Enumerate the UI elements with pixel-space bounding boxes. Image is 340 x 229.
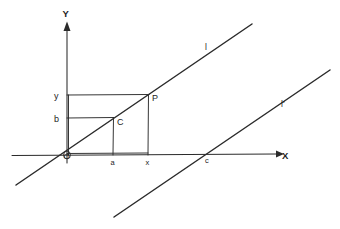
point-c-label: C	[117, 117, 124, 127]
coordinate-diagram: X Y O y b a x c P C l l'	[0, 0, 340, 229]
a-value-label: a	[111, 158, 116, 167]
line-l-group	[16, 24, 252, 185]
figure-root: X Y O y b a x c P C l l'	[0, 0, 340, 229]
origin-label: O	[64, 152, 70, 161]
point-p-label: P	[152, 93, 158, 103]
y-value-label: y	[54, 91, 59, 101]
line-l-prime	[114, 70, 330, 217]
segment-b-to-c	[67, 118, 114, 119]
y-axis-label: Y	[63, 8, 70, 19]
x-axis-label: X	[282, 150, 289, 161]
construction-group	[67, 95, 149, 156]
segment-p-to-x	[148, 95, 149, 156]
y-axis-arrow-icon	[64, 22, 71, 32]
line-l-prime-group	[114, 70, 330, 217]
x-value-label: x	[146, 158, 150, 167]
line-l-label: l	[205, 42, 207, 52]
segment-c-to-a	[113, 118, 114, 156]
labels-group: X Y O y b a x c P C l l'	[54, 8, 289, 167]
b-value-label: b	[54, 114, 59, 124]
segment-y-to-p	[67, 95, 149, 96]
line-l-prime-label: l'	[281, 99, 285, 109]
c-value-label: c	[205, 156, 209, 165]
line-l	[16, 24, 252, 185]
x-axis-line	[12, 154, 276, 156]
segment-origin-to-x	[67, 153, 148, 154]
